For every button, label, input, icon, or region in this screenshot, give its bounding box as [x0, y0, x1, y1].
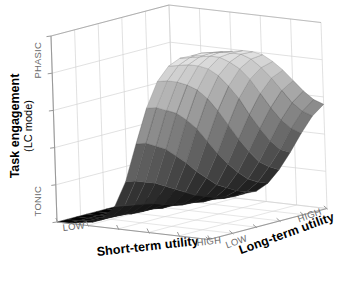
y-tick-phasic: PHASIC [32, 42, 43, 79]
surface-mesh [57, 51, 324, 224]
y-axis-label: Task engagement (LC mode) [9, 66, 35, 186]
y-axis-label-main: Task engagement [9, 66, 22, 186]
y-axis-label-sub: (LC mode) [22, 66, 35, 186]
y-tick-tonic: TONIC [32, 186, 43, 216]
surface-plot-figure: Task engagement (LC mode) PHASIC TONIC S… [0, 0, 340, 281]
